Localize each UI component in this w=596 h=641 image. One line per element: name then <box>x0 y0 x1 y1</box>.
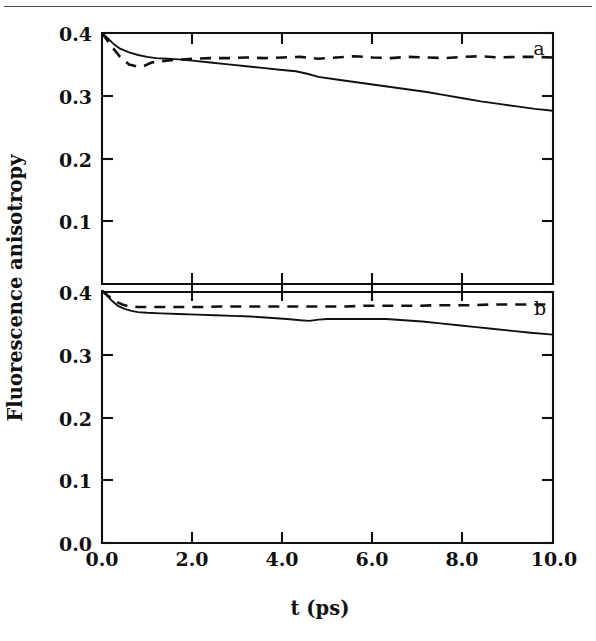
panel-b-y-ticks-right <box>542 292 553 543</box>
x-tick-label: 2.0 <box>175 548 208 570</box>
y-tick-label: 0.3 <box>59 345 92 367</box>
panel-a-x-ticks-bottom <box>192 273 462 284</box>
x-tick-label: 8.0 <box>445 548 478 570</box>
y-tick-label: 0.4 <box>59 282 92 304</box>
panel-a-x-ticks-top <box>192 33 462 44</box>
x-tick-label: 10.0 <box>531 548 577 570</box>
panel-b: 0.4 0.3 0.2 0.1 0.0 b <box>59 282 553 555</box>
figure-root: 0.4 0.3 0.2 0.1 a <box>0 0 596 641</box>
panel-b-y-tick-labels: 0.4 0.3 0.2 0.1 0.0 <box>59 282 92 555</box>
x-tick-label: 0.0 <box>85 548 118 570</box>
panel-b-solid-curve <box>102 291 553 335</box>
anisotropy-figure: 0.4 0.3 0.2 0.1 a <box>0 0 596 641</box>
y-tick-label: 0.1 <box>59 470 92 492</box>
panel-a-solid-curve <box>102 33 553 111</box>
y-tick-label: 0.2 <box>59 149 92 171</box>
panel-a-y-ticks-right <box>542 33 553 221</box>
x-axis-title: t (ps) <box>291 597 350 620</box>
panel-b-label: b <box>534 297 546 319</box>
panel-b-y-ticks <box>102 292 113 543</box>
y-axis-title: Fluorescence anisotropy <box>4 154 27 422</box>
panel-b-dashed-curve <box>102 291 553 307</box>
panel-a: 0.4 0.3 0.2 0.1 a <box>59 23 553 284</box>
x-tick-labels: 0.0 2.0 4.0 6.0 8.0 10.0 <box>85 548 577 570</box>
panel-a-frame <box>102 33 553 284</box>
panel-a-label: a <box>533 37 544 59</box>
y-tick-label: 0.2 <box>59 408 92 430</box>
panel-a-dashed-curve <box>102 33 553 67</box>
y-tick-label: 0.4 <box>59 23 92 45</box>
panel-a-y-tick-labels: 0.4 0.3 0.2 0.1 <box>59 23 92 233</box>
x-tick-label: 4.0 <box>265 548 298 570</box>
y-tick-label: 0.1 <box>59 211 92 233</box>
x-tick-label: 6.0 <box>355 548 388 570</box>
panel-b-frame <box>102 292 553 543</box>
panel-a-y-ticks <box>102 33 113 221</box>
panel-b-x-ticks-bottom <box>192 532 462 543</box>
y-tick-label: 0.3 <box>59 86 92 108</box>
